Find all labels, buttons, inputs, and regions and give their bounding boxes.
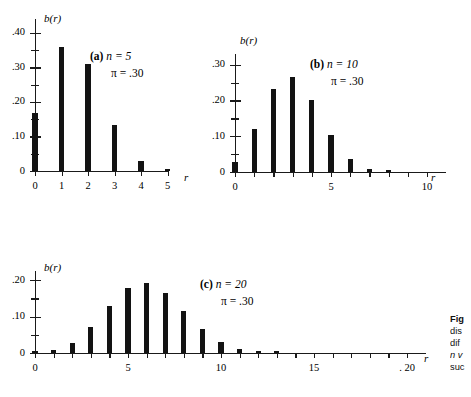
panel-b-x-tick (408, 172, 409, 177)
panel-b-x-tick (254, 172, 255, 177)
panel-b-x-tick (350, 172, 351, 177)
panel-c-x-tick (109, 353, 110, 358)
panel-b-letter: (b) (310, 58, 324, 70)
panel-c-x-tick-label: . 20 (387, 363, 427, 374)
panel-a-plot-area: 0.10.20.30.40012345 (0, 0, 200, 210)
panel-c-bar (181, 311, 186, 353)
panel-b-y-tick-minor (231, 83, 239, 84)
panel-c-x-tick (54, 353, 55, 358)
panel-c-letter: (c) (200, 278, 213, 290)
panel-c-x-tick (333, 353, 334, 358)
panel-b-x-tick (389, 172, 390, 177)
panel-c-y-tick-major (30, 317, 41, 318)
panel-c-x-tick-label: 10 (201, 363, 241, 374)
panel-a-x-tick (35, 171, 36, 176)
panel-c-annotation: (c) n = 20 π = .30 (200, 276, 253, 309)
panel-a-bar (59, 47, 64, 171)
panel-c-bar (51, 350, 56, 353)
panel-b-n: n = 10 (327, 58, 358, 70)
caption-line-6: is c (450, 373, 471, 375)
panel-c-x-tick (295, 353, 296, 358)
panel-b-x-tick (293, 172, 294, 177)
panel-a-x-tick (62, 171, 63, 176)
panel-a-x-tick (168, 171, 169, 176)
panel-b-x-tick (312, 172, 313, 177)
panel-c-x-tick (202, 353, 203, 358)
panel-a-x-tick (115, 171, 116, 176)
panel-c-x-axis-title: r (424, 353, 428, 364)
panel-c-x-tick (147, 353, 148, 358)
panel-b-bar (232, 162, 237, 172)
panel-b-bar (309, 100, 314, 172)
panel-c-x-axis (35, 353, 426, 354)
panel-b-annotation: (b) n = 10 π = .30 (310, 56, 363, 89)
panel-b-x-tick-label: 0 (215, 182, 255, 193)
panel-a-y-tick-major (30, 67, 41, 68)
panel-b-bar (290, 77, 295, 172)
panel-b-x-tick-label: 5 (311, 182, 351, 193)
panel-a-bar (165, 169, 170, 171)
panel-c-pi: π = .30 (200, 293, 253, 310)
panel-c-y-tick-minor (31, 298, 39, 299)
panel-b-y-tick-minor (231, 154, 239, 155)
panel-c-bar (70, 343, 75, 353)
panel-c-bar (274, 351, 279, 353)
panel-b-bar (386, 170, 391, 172)
panel-a-annotation: (a) n = 5 π = .30 (90, 48, 143, 81)
caption-line-5: suc (450, 361, 471, 373)
panel-b: b(r) 0.10.20.300510 r (b) n = 10 π = .30 (195, 30, 471, 210)
panel-c-x-tick (221, 353, 222, 358)
panel-a-x-tick (141, 171, 142, 176)
panel-b-x-tick (427, 172, 428, 177)
panel-b-x-tick-label: 10 (407, 182, 447, 193)
panel-b-x-tick (235, 172, 236, 177)
panel-b-x-tick (331, 172, 332, 177)
panel-c-x-tick (351, 353, 352, 358)
panel-c-x-tick (407, 353, 408, 358)
panel-a-y-tick-major (30, 102, 41, 103)
panel-b-y-tick-major (230, 65, 241, 66)
panel-c-bar (163, 293, 168, 353)
caption-line-2: dis (450, 325, 471, 337)
panel-c-x-tick (258, 353, 259, 358)
panel-a-y-tick-major (30, 33, 41, 34)
panel-b-y-tick-label: 0 (191, 167, 225, 178)
panel-a-x-axis (35, 171, 168, 172)
panel-a-y-tick-label: .20 (0, 96, 25, 107)
panel-b-y-tick-minor (231, 118, 239, 119)
panel-b-x-tick (369, 172, 370, 177)
panel-b-x-axis-title: r (431, 172, 435, 183)
panel-c-bar (88, 327, 93, 353)
panel-b-x-tick (273, 172, 274, 177)
panel-c-bar (256, 351, 261, 353)
panel-c: b(r) 0.10.20051015. 20 r (c) n = 20 π = … (0, 252, 440, 397)
panel-a-y-tick-label: .10 (0, 131, 25, 142)
panel-b-y-tick-label: .30 (191, 59, 225, 70)
panel-a-x-axis-title: r (184, 172, 188, 183)
panel-c-y-tick-minor (31, 335, 39, 336)
panel-b-bar (367, 169, 372, 172)
panel-b-bar (348, 159, 353, 172)
panel-b-bar (252, 129, 257, 172)
panel-c-x-tick (314, 353, 315, 358)
panel-c-x-tick (128, 353, 129, 358)
panel-a-n: n = 5 (106, 50, 131, 62)
panel-b-y-tick-major (230, 100, 241, 101)
panel-a-y-tick-label: 0 (0, 166, 25, 177)
panel-c-y-axis (35, 271, 36, 354)
panel-c-bar (107, 306, 112, 353)
panel-c-bar (237, 349, 242, 353)
figure-caption: Fig dis dif n v suc is c (450, 313, 471, 375)
panel-a-y-tick-minor (31, 50, 39, 51)
panel-a-x-tick (88, 171, 89, 176)
panel-a-letter: (a) (90, 50, 103, 62)
panel-c-bar (200, 329, 205, 353)
panel-b-y-tick-label: .10 (191, 131, 225, 142)
panel-c-y-tick-label: 0 (0, 348, 25, 359)
panel-c-x-tick (72, 353, 73, 358)
panel-a-pi: π = .30 (90, 65, 143, 82)
panel-c-bar (125, 288, 130, 353)
panel-c-plot-area: 0.10.20051015. 20 (0, 252, 440, 397)
panel-a-x-tick-label: 5 (148, 181, 188, 192)
panel-c-x-tick (388, 353, 389, 358)
